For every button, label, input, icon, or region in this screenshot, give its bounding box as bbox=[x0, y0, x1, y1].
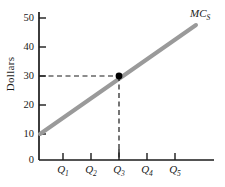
equilibrium-point-marker bbox=[116, 73, 123, 80]
mc-supply-curve-line bbox=[40, 25, 196, 134]
marginal-cost-supply-chart: Dollars 50 40 30 20 10 0 Q1 Q2 Q3 Q4 Q5 … bbox=[0, 0, 225, 187]
plot-area bbox=[0, 0, 225, 187]
